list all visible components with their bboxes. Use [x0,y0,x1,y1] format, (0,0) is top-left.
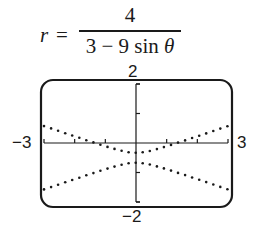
graph-screen [0,0,257,232]
axes [44,84,228,202]
